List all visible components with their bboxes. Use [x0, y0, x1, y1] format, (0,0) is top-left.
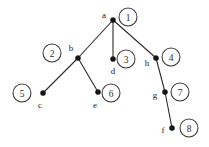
edges-group [43, 20, 172, 128]
order-number-5: 5 [20, 89, 25, 99]
node-label-f: f [162, 125, 165, 135]
node-dot-a[interactable] [110, 17, 115, 22]
node-dot-b[interactable] [75, 55, 80, 60]
edge-a-b [78, 20, 113, 58]
node-label-e: e [93, 100, 97, 110]
edge-b-e [78, 58, 98, 92]
order-number-1: 1 [126, 13, 131, 23]
node-dot-f[interactable] [169, 125, 174, 130]
order-number-3: 3 [124, 55, 129, 65]
tree-diagram-canvas: abdhcegf 12345678 [0, 0, 209, 147]
edge-h-g [156, 58, 165, 92]
node-labels-group: abdhcegf [38, 10, 165, 135]
edge-b-c [43, 58, 78, 93]
node-label-b: b [69, 43, 74, 53]
order-number-6: 6 [109, 89, 114, 99]
node-dot-d[interactable] [110, 56, 115, 61]
order-number-4: 4 [169, 53, 174, 63]
node-label-a: a [102, 10, 106, 20]
order-number-2: 2 [50, 49, 55, 59]
node-dot-c[interactable] [40, 90, 45, 95]
node-dot-g[interactable] [162, 89, 167, 94]
node-dot-h[interactable] [153, 55, 158, 60]
edge-g-f [165, 92, 172, 128]
node-label-h: h [145, 58, 150, 68]
node-label-c: c [38, 100, 42, 110]
order-number-8: 8 [187, 124, 192, 134]
node-label-g: g [153, 90, 158, 100]
graph-svg: abdhcegf 12345678 [0, 0, 209, 147]
order-number-7: 7 [178, 88, 183, 98]
node-dot-e[interactable] [95, 89, 100, 94]
nodes-group [40, 17, 174, 130]
node-label-d: d [111, 66, 116, 76]
